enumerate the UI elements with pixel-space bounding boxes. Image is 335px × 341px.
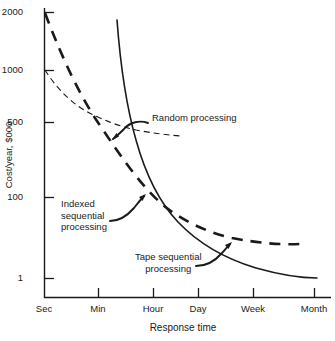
cost-vs-response-time-chart: Cost/year, $000 2000 1000 500 100 1 Sec … bbox=[0, 0, 335, 341]
annotation-indexed-line-1: Indexed bbox=[61, 198, 107, 210]
x-tick-label-hour: Hour bbox=[143, 304, 164, 314]
x-axis-title: Response time bbox=[150, 322, 217, 333]
indexed-sequential-leader bbox=[110, 194, 146, 221]
x-axis-ticks bbox=[99, 288, 315, 298]
x-tick-label-month: Month bbox=[301, 304, 327, 314]
y-tick-text-2000: 2000 bbox=[2, 7, 23, 17]
x-tick-label-day: Day bbox=[190, 304, 207, 314]
annotation-random-processing: Random processing bbox=[152, 112, 237, 124]
x-tick-label-week: Week bbox=[241, 304, 265, 314]
y-tick-text-1: 1 bbox=[18, 273, 23, 283]
y-tick-text-500: 500 bbox=[7, 117, 23, 127]
annotation-indexed-line-2: sequential bbox=[61, 210, 107, 222]
y-tick-text-100: 100 bbox=[7, 192, 23, 202]
chart-plot-area: Cost/year, $000 bbox=[0, 0, 335, 341]
y-axis-ticks bbox=[45, 13, 55, 279]
x-tick-label-min: Min bbox=[90, 304, 105, 314]
annotation-indexed-line-3: processing bbox=[61, 221, 107, 233]
series-tape-sequential-processing bbox=[117, 20, 317, 278]
annotation-tape-line-2: processing bbox=[135, 263, 202, 275]
annotation-indexed-sequential-processing: Indexed sequential processing bbox=[61, 198, 107, 233]
series-random-processing bbox=[45, 70, 181, 136]
annotation-tape-line-1: Tape sequential bbox=[135, 251, 202, 263]
y-axis-title: Cost/year, $000 bbox=[3, 122, 14, 189]
annotation-tape-sequential-processing: Tape sequential processing bbox=[135, 251, 202, 274]
x-tick-label-sec: Sec bbox=[36, 304, 52, 314]
y-tick-text-1000: 1000 bbox=[2, 65, 23, 75]
